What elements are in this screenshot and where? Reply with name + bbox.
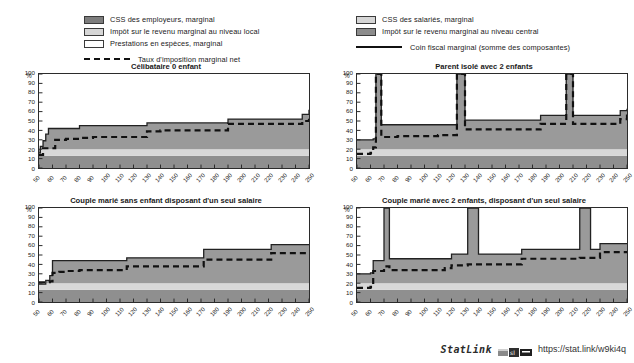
y-tick-label: 100: [25, 70, 35, 76]
x-tick-label: 80: [73, 175, 82, 184]
area-band: [39, 110, 309, 153]
x-tick-label: 240: [291, 306, 302, 317]
x-tick-label: 130: [459, 172, 470, 183]
x-tick-label: 210: [250, 172, 261, 183]
chart-title: Parent isolé avec 2 enfants: [338, 62, 630, 72]
x-tick-label: 240: [291, 172, 302, 183]
y-tick-label: 90: [28, 80, 35, 86]
y-tick-label: 10: [346, 156, 353, 162]
figure-legend: CSS des employeurs, marginal Impôt sur l…: [0, 14, 634, 64]
light-gray-swatch-icon: [84, 28, 104, 36]
x-tick-label: 90: [87, 309, 96, 318]
x-tick-label: 210: [250, 306, 261, 317]
y-tick-label: 80: [346, 223, 353, 229]
x-tick-label: 60: [364, 309, 373, 318]
x-tick-label: 70: [59, 309, 68, 318]
x-tick-label: 90: [405, 309, 414, 318]
legend-label: CSS des salariés, marginal: [382, 15, 474, 24]
plot-svg: [39, 208, 309, 302]
x-tick-label: 130: [141, 306, 152, 317]
x-tick-label: 240: [609, 172, 620, 183]
legend-label: Impôt sur le revenu marginal au niveau c…: [382, 27, 539, 36]
x-tick-label: 150: [168, 306, 179, 317]
y-tick-label: 90: [28, 214, 35, 220]
chart-panel-couple-marie-2-enfants: Couple marié avec 2 enfants, disposant d…: [330, 196, 630, 307]
y-tick-label: 50: [28, 252, 35, 258]
statlink-badge-icon: sl: [498, 344, 532, 354]
y-tick-label: 70: [346, 233, 353, 239]
plot-area: [38, 73, 310, 169]
x-tick-label: 200: [554, 172, 565, 183]
x-tick-label: 90: [87, 175, 96, 184]
y-tick-label: 40: [346, 128, 353, 134]
chart-title: Célibataire 0 enfant: [20, 62, 312, 72]
x-tick-label: 50: [32, 175, 41, 184]
legend-item-impot-local: Impôt sur le revenu marginal au niveau l…: [84, 26, 259, 37]
x-tick-label: 100: [100, 172, 111, 183]
plot-area: [38, 207, 310, 303]
plot-area: [356, 73, 628, 169]
y-tick-label: 0: [32, 166, 35, 172]
y-tick-label: 40: [346, 262, 353, 268]
x-tick-label: 60: [46, 175, 55, 184]
legend-item-css-employeurs: CSS des employeurs, marginal: [84, 14, 259, 25]
x-tick-label: 170: [513, 306, 524, 317]
chart-panel-couple-marie-sans-enfant: Couple marié sans enfant disposant d'un …: [12, 196, 312, 307]
dark-gray-swatch-icon: [84, 16, 104, 24]
y-tick-label: 50: [346, 252, 353, 258]
y-tick-label: 20: [28, 147, 35, 153]
y-tick-label: 90: [346, 80, 353, 86]
y-tick-label: 30: [28, 271, 35, 277]
y-tick-label: 70: [28, 99, 35, 105]
y-tick-label: 30: [346, 271, 353, 277]
x-tick-label: 50: [350, 309, 359, 318]
x-tick-label: 120: [445, 172, 456, 183]
y-tick-label: 0: [32, 300, 35, 306]
y-tick-label: 50: [346, 118, 353, 124]
solid-line-key-icon: [356, 46, 402, 48]
y-axis-labels: 0102030405060708090100: [330, 207, 354, 303]
chart-title: Couple marié sans enfant disposant d'un …: [20, 196, 312, 206]
x-tick-label: 220: [263, 172, 274, 183]
figure-root: CSS des employeurs, marginal Impôt sur l…: [0, 0, 634, 363]
x-tick-label: 70: [377, 309, 386, 318]
y-tick-label: 70: [28, 233, 35, 239]
x-tick-label: 80: [391, 309, 400, 318]
x-tick-label: 190: [541, 306, 552, 317]
x-tick-label: 80: [391, 175, 400, 184]
x-tick-label: 220: [581, 172, 592, 183]
x-tick-label: 50: [32, 309, 41, 318]
x-tick-label: 160: [500, 172, 511, 183]
x-tick-label: 180: [527, 172, 538, 183]
x-tick-label: 110: [432, 172, 443, 183]
plot-area: [356, 207, 628, 303]
x-tick-label: 230: [277, 172, 288, 183]
x-tick-label: 130: [459, 306, 470, 317]
y-axis-labels: 0102030405060708090100: [12, 207, 36, 303]
y-tick-label: 20: [346, 147, 353, 153]
legend-item-css-salaries: CSS des salariés, marginal: [356, 14, 570, 25]
x-tick-label: 90: [405, 175, 414, 184]
dashed-line-key-icon: [84, 58, 130, 60]
x-tick-label: 120: [445, 306, 456, 317]
y-tick-label: 20: [346, 281, 353, 287]
x-tick-label: 150: [168, 172, 179, 183]
x-tick-label: 110: [114, 306, 125, 317]
x-tick-label: 70: [377, 175, 386, 184]
x-tick-label: 170: [195, 172, 206, 183]
y-tick-label: 10: [28, 290, 35, 296]
statlink-bar: StatLink sl https://stat.link/w9ki4q: [0, 341, 634, 357]
x-tick-label: 200: [236, 172, 247, 183]
y-tick-label: 0: [350, 166, 353, 172]
x-axis-labels: 5060708090100110120130140150160170180190…: [356, 304, 628, 334]
chart-title: Couple marié avec 2 enfants, disposant d…: [338, 196, 630, 206]
x-tick-label: 110: [432, 306, 443, 317]
plot-svg: [357, 74, 627, 168]
y-tick-label: 90: [346, 214, 353, 220]
x-tick-label: 230: [595, 306, 606, 317]
y-tick-label: 100: [343, 204, 353, 210]
y-tick-label: 20: [28, 281, 35, 287]
light-gray-swatch-icon: [356, 16, 376, 24]
y-tick-label: 30: [346, 137, 353, 143]
legend-label: Impôt sur le revenu marginal au niveau l…: [110, 27, 259, 36]
